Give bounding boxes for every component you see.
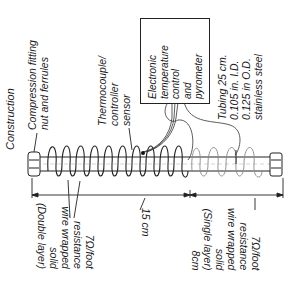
diagram-title: Construction (4, 88, 16, 150)
label-line: solid (48, 203, 60, 269)
label-line: 0.125 in O.D. (240, 54, 252, 120)
label-line: Tubing 25 cm. (216, 54, 228, 120)
label-line: 0.105 in. I.D. (228, 54, 240, 120)
label-line: controller (108, 56, 120, 126)
label-line: pyrometer (193, 45, 205, 99)
tubing-label: Tubing 25 cm. 0.105 in. I.D. 0.125 in O.… (216, 54, 264, 120)
sensor-tip-icon (141, 151, 145, 155)
label-line: wire wrapped (226, 208, 238, 270)
double-layer-winding (48, 146, 188, 177)
label-line: 8cm (190, 208, 202, 270)
label-line: resistance (238, 208, 250, 270)
right-winding-label: 7Ω/foot resistance wire wrapped solid (S… (190, 208, 262, 270)
dimension-lines (32, 178, 283, 198)
controller-label: Electronic temperature control and pyrom… (147, 45, 205, 99)
left-winding-label: 7Ω/foot resistance wire wrapped solid (D… (36, 203, 96, 269)
dimension-left-label: 15 cm (140, 208, 152, 237)
label-line: temperature (159, 45, 171, 99)
label-line: and (182, 45, 194, 99)
thermocouple-label: Thermocouple/ controller sensor (96, 56, 132, 126)
single-layer-winding (192, 148, 262, 178)
label-line: (Double layer) (36, 203, 48, 269)
label-line: solid (214, 208, 226, 270)
label-line: 7Ω/foot (84, 203, 96, 269)
label-line: sensor (120, 56, 132, 126)
label-line: 7Ω/foot (250, 208, 262, 270)
left-fitting-icon (28, 152, 40, 176)
label-line: (Single layer) (202, 208, 214, 270)
controller-box: Electronic temperature control and pyrom… (140, 18, 210, 104)
label-line: control (170, 45, 182, 99)
label-line: nut and ferrules (38, 40, 50, 130)
label-line: resistance (72, 203, 84, 269)
label-line: Thermocouple/ (96, 56, 108, 126)
label-line: Compression fitting (26, 40, 38, 130)
label-line: stainless steel (252, 54, 264, 120)
label-line: Electronic (147, 45, 159, 99)
right-fitting-icon (270, 153, 282, 176)
label-line: wire wrapped (60, 203, 72, 269)
compression-fitting-label: Compression fitting nut and ferrules (26, 40, 50, 130)
